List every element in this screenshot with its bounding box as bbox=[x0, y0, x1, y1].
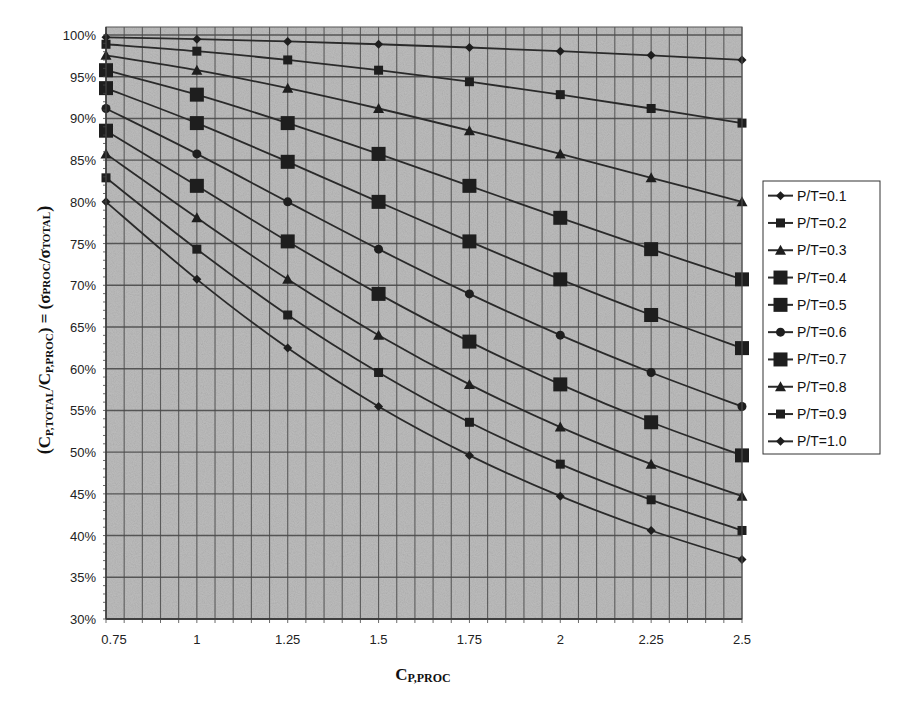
x-axis: 0.7511.251.51.7522.252.5 bbox=[101, 619, 751, 647]
legend-item: P/T=0.4 bbox=[768, 270, 847, 286]
legend-item: P/T=0.7 bbox=[768, 351, 847, 367]
x-tick-label: 1.25 bbox=[275, 632, 300, 647]
y-tick-label: 60% bbox=[70, 362, 96, 377]
y-tick-label: 75% bbox=[70, 237, 96, 252]
x-tick-label: 1.75 bbox=[457, 632, 482, 647]
square-marker bbox=[553, 272, 567, 286]
x-tick-label: 2.25 bbox=[638, 632, 663, 647]
square-marker bbox=[192, 245, 201, 254]
x-tick-label: 2 bbox=[557, 632, 564, 647]
square-marker bbox=[556, 460, 565, 469]
square-marker bbox=[281, 116, 295, 130]
x-tick-label: 1.5 bbox=[370, 632, 388, 647]
square-marker bbox=[774, 271, 788, 285]
square-marker bbox=[190, 116, 204, 130]
square-marker bbox=[465, 418, 474, 427]
square-marker bbox=[644, 415, 658, 429]
x-tick-label: 2.5 bbox=[733, 632, 751, 647]
square-marker bbox=[283, 55, 292, 64]
square-marker bbox=[372, 195, 386, 209]
square-marker bbox=[776, 218, 785, 227]
y-tick-label: 40% bbox=[70, 529, 96, 544]
square-marker bbox=[462, 234, 476, 248]
legend-label: P/T=1.0 bbox=[797, 433, 847, 449]
circle-marker bbox=[776, 328, 785, 337]
legend-item: P/T=0.5 bbox=[768, 297, 847, 313]
square-marker bbox=[374, 66, 383, 75]
square-marker bbox=[281, 234, 295, 248]
circle-marker bbox=[465, 289, 474, 298]
square-marker bbox=[774, 298, 788, 312]
y-axis-title-text: (CP,TOTAL/CP,PROC) = (σPROC/σTOTAL) bbox=[34, 206, 55, 454]
square-marker bbox=[553, 377, 567, 391]
square-marker bbox=[190, 179, 204, 193]
y-axis-title: (CP,TOTAL/CP,PROC) = (σPROC/σTOTAL) bbox=[34, 206, 55, 454]
square-marker bbox=[774, 352, 788, 366]
x-axis-title-text: CP,PROC bbox=[395, 665, 451, 685]
legend-label: P/T=0.1 bbox=[797, 188, 847, 204]
y-tick-label: 100% bbox=[63, 28, 97, 43]
plot-area bbox=[99, 27, 749, 619]
y-tick-label: 95% bbox=[70, 70, 96, 85]
legend-label: P/T=0.7 bbox=[797, 351, 847, 367]
legend-label: P/T=0.6 bbox=[797, 324, 847, 340]
square-marker bbox=[465, 77, 474, 86]
legend-label: P/T=0.3 bbox=[797, 242, 847, 258]
y-tick-label: 65% bbox=[70, 320, 96, 335]
square-marker bbox=[190, 88, 204, 102]
square-marker bbox=[644, 308, 658, 322]
square-marker bbox=[192, 47, 201, 56]
y-tick-label: 30% bbox=[70, 612, 96, 627]
chart: 100%95%90%85%80%75%70%65%60%55%50%45%40%… bbox=[0, 0, 902, 712]
square-marker bbox=[372, 147, 386, 161]
x-axis-title: CP,PROC bbox=[395, 665, 451, 685]
square-marker bbox=[553, 211, 567, 225]
y-tick-label: 45% bbox=[70, 487, 96, 502]
y-tick-label: 70% bbox=[70, 278, 96, 293]
square-marker bbox=[462, 335, 476, 349]
square-marker bbox=[776, 410, 785, 419]
circle-marker bbox=[647, 368, 656, 377]
x-tick-label: 0.75 bbox=[101, 632, 126, 647]
square-marker bbox=[462, 179, 476, 193]
legend: P/T=0.1P/T=0.2P/T=0.3P/T=0.4P/T=0.5P/T=0… bbox=[763, 181, 880, 454]
square-marker bbox=[647, 104, 656, 113]
legend-label: P/T=0.2 bbox=[797, 215, 847, 231]
square-marker bbox=[556, 90, 565, 99]
y-tick-label: 90% bbox=[70, 111, 96, 126]
y-axis-title-group: (CP,TOTAL/CP,PROC) = (σPROC/σTOTAL) bbox=[34, 206, 55, 454]
circle-marker bbox=[192, 149, 201, 158]
circle-marker bbox=[374, 245, 383, 254]
legend-label: P/T=0.9 bbox=[797, 406, 847, 422]
square-marker bbox=[647, 495, 656, 504]
y-tick-label: 55% bbox=[70, 403, 96, 418]
plot-background bbox=[106, 27, 742, 619]
y-tick-label: 85% bbox=[70, 153, 96, 168]
legend-label: P/T=0.5 bbox=[797, 297, 847, 313]
square-marker bbox=[644, 242, 658, 256]
circle-marker bbox=[556, 331, 565, 340]
legend-label: P/T=0.4 bbox=[797, 270, 847, 286]
square-marker bbox=[374, 368, 383, 377]
square-marker bbox=[283, 310, 292, 319]
legend-label: P/T=0.8 bbox=[797, 379, 847, 395]
square-marker bbox=[372, 287, 386, 301]
y-tick-label: 35% bbox=[70, 570, 96, 585]
x-tick-label: 1 bbox=[193, 632, 200, 647]
y-tick-label: 50% bbox=[70, 445, 96, 460]
square-marker bbox=[281, 155, 295, 169]
y-tick-label: 80% bbox=[70, 195, 96, 210]
y-axis: 100%95%90%85%80%75%70%65%60%55%50%45%40%… bbox=[63, 27, 106, 627]
circle-marker bbox=[283, 197, 292, 206]
